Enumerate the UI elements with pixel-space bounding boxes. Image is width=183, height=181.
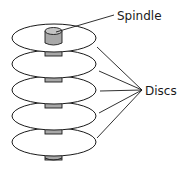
disk-stack-diagram: Spindle Discs [0, 0, 183, 181]
spindle-label: Spindle [117, 9, 162, 23]
spindle-top-icon [45, 28, 62, 46]
discs-label: Discs [145, 84, 177, 98]
discs-leader-lines [97, 47, 142, 138]
